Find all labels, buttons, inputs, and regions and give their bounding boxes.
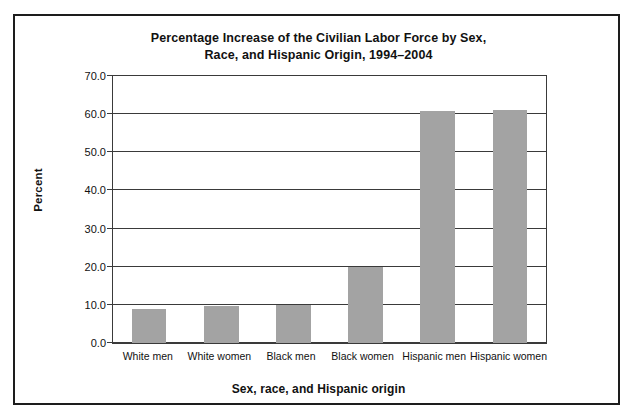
- x-axis-tick-labels: White menWhite womenBlack menBlack women…: [112, 350, 547, 362]
- bar: [132, 309, 167, 343]
- plot-area: 0.010.020.030.040.050.060.070.0: [112, 75, 547, 344]
- bar: [276, 305, 311, 343]
- x-axis-tick-label: Black women: [327, 350, 399, 362]
- x-axis-tick-label: White men: [112, 350, 184, 362]
- y-axis-tick-label: 40.0: [85, 184, 106, 196]
- y-axis-tick-label: 70.0: [85, 70, 106, 82]
- bar: [493, 110, 528, 343]
- chart-figure: Percentage Increase of the Civilian Labo…: [13, 14, 620, 405]
- chart-title: Percentage Increase of the Civilian Labo…: [15, 30, 622, 64]
- bar-slot: [257, 76, 329, 343]
- y-axis-tick-label: 30.0: [85, 223, 106, 235]
- y-axis-tick-label: 20.0: [85, 261, 106, 273]
- bar: [420, 111, 455, 343]
- y-axis-tick-label: 60.0: [85, 108, 106, 120]
- bar: [204, 306, 239, 343]
- bar-slot: [113, 76, 185, 343]
- y-axis-tick-label: 50.0: [85, 146, 106, 158]
- chart-title-line-1: Percentage Increase of the Civilian Labo…: [15, 30, 622, 47]
- y-axis-tick-label: 0.0: [91, 337, 106, 349]
- x-axis-tick-label: White women: [184, 350, 256, 362]
- bar-slot: [402, 76, 474, 343]
- x-axis-tick-label: Hispanic women: [470, 350, 547, 362]
- x-axis-tick-label: Black men: [255, 350, 327, 362]
- bar: [348, 267, 383, 343]
- bar-slot: [330, 76, 402, 343]
- bar-slot: [185, 76, 257, 343]
- y-axis-tick-label: 10.0: [85, 299, 106, 311]
- x-axis-tick-label: Hispanic men: [398, 350, 470, 362]
- chart-title-line-2: Race, and Hispanic Origin, 1994–2004: [15, 47, 622, 64]
- bar-series: [113, 76, 546, 343]
- y-axis-label: Percent: [32, 130, 44, 250]
- bar-slot: [474, 76, 546, 343]
- x-axis-label: Sex, race, and Hispanic origin: [15, 382, 622, 396]
